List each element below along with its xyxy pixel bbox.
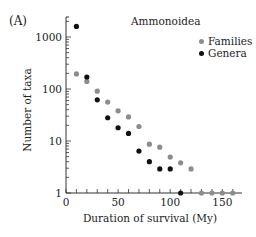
genera-point	[157, 166, 162, 171]
families-point	[116, 108, 121, 113]
legend-item-genera: Genera	[199, 48, 252, 60]
x-tick-label: 0	[63, 196, 70, 208]
y-tick-label: 1	[55, 187, 62, 199]
families-point	[105, 99, 110, 104]
x-tick-label: 100	[160, 196, 180, 208]
families-point	[157, 145, 162, 150]
y-tick-label: 100	[42, 83, 62, 95]
legend-label-genera: Genera	[208, 48, 247, 60]
genera-point	[147, 159, 152, 164]
families-point	[178, 160, 183, 165]
families-point	[74, 71, 79, 76]
families-point	[230, 190, 235, 195]
y-tick-label: 10	[49, 135, 62, 147]
genera-marker-icon	[199, 51, 204, 56]
legend-label-families: Families	[208, 36, 252, 48]
families-point	[136, 124, 141, 129]
x-tick-label: 50	[111, 196, 124, 208]
genera-point	[95, 97, 100, 102]
families-point	[147, 142, 152, 147]
panel-label: (A)	[9, 14, 27, 28]
y-axis-label: Number of taxa	[21, 68, 33, 151]
genera-point	[84, 74, 89, 79]
genera-point	[74, 24, 79, 29]
families-point	[168, 155, 173, 160]
genera-point	[105, 115, 110, 120]
x-axis-label: Duration of survival (My)	[83, 212, 217, 224]
genera-point	[126, 131, 131, 136]
families-point	[199, 190, 204, 195]
genera-point	[168, 166, 173, 171]
families-point	[209, 190, 214, 195]
x-tick-label: 150	[212, 196, 232, 208]
chart-title: Ammonoidea	[131, 15, 200, 27]
families-point	[95, 89, 100, 94]
genera-point	[178, 190, 183, 195]
families-marker-icon	[199, 39, 204, 44]
legend-item-families: Families	[199, 36, 252, 48]
y-tick-label: 1000	[35, 31, 62, 43]
genera-point	[136, 148, 141, 153]
families-point	[188, 166, 193, 171]
families-point	[126, 114, 131, 119]
legend: Families Genera	[199, 36, 252, 59]
genera-point	[116, 125, 121, 130]
families-point	[220, 190, 225, 195]
